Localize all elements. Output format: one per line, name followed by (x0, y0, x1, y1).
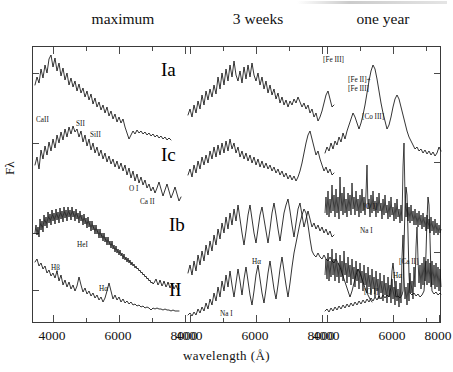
x-axis-label: wavelength (Å) (183, 348, 270, 364)
x-tick-top (190, 47, 191, 54)
x-tick-top (223, 47, 224, 51)
ion-label-coiii-ia-oneyear: [Co III] (362, 114, 384, 122)
sn-type-label-ii: II (169, 279, 182, 301)
x-tick (190, 315, 191, 322)
ion-label-oi-ic-oneyear: [O I] (363, 204, 377, 212)
spectrum-ia-one-year (325, 65, 441, 156)
plot-frame: Ia Ic Ib II CaII SII SiII O I Ca II HeI … (32, 46, 441, 323)
ion-label-caii-ii-oneyear: [Ca II] (399, 259, 418, 267)
ion-label-nai-ii-3weeks: Na I (220, 311, 233, 319)
spectrum-ii-one-year (325, 187, 441, 312)
x-tick-label: 6000 (105, 328, 132, 344)
ion-label-oi-ii-oneyear: [O I] (364, 289, 378, 297)
spectrum-ia-maximum (35, 55, 171, 140)
y-tick-right (434, 162, 440, 163)
ion-label-caii-ia: CaII (36, 117, 49, 125)
y-tick-right (434, 252, 440, 253)
x-tick-top (256, 47, 257, 54)
x-tick-top (360, 47, 361, 51)
ion-label-caii-ic: Ca II (140, 199, 155, 207)
y-axis-label: Fλ (2, 161, 18, 175)
ion-label-feii-feiii-ia-oneyear: [Fe II]+ (348, 77, 371, 85)
spectrum-ia-3weeks (188, 61, 334, 121)
ion-label-oi-ic: O I (129, 186, 138, 194)
x-tick-top (185, 47, 186, 54)
column-header-one-year: one year (357, 10, 410, 28)
y-tick (33, 290, 39, 291)
ion-label-nai-ib-oneyear: Na I (360, 228, 373, 236)
sn-type-label-ic: Ic (161, 144, 176, 166)
spectrum-ib-maximum (35, 207, 179, 290)
x-tick-top (119, 47, 120, 54)
supernova-spectra-figure: maximum 3 weeks one year Fλ (0, 0, 453, 372)
scan-artifact (297, 1, 447, 4)
x-tick (327, 315, 328, 322)
x-tick-label: 4000 (176, 328, 203, 344)
ion-label-halpha-ii: Hα (99, 286, 108, 294)
spectrum-ib-3weeks (188, 199, 334, 275)
x-tick (360, 318, 361, 322)
ion-label-halpha-ii-3weeks: Hα (252, 259, 261, 267)
x-tick (289, 318, 290, 322)
ion-label-sii-ia: SII (76, 121, 85, 129)
x-tick-label: 4000 (313, 328, 340, 344)
ion-label-hbeta-ii: Hβ (51, 265, 60, 273)
x-tick (86, 318, 87, 322)
sn-type-label-ia: Ia (161, 59, 176, 81)
x-tick (322, 315, 323, 322)
x-tick (152, 318, 153, 322)
sn-type-label-ib: Ib (169, 214, 185, 236)
spectrum-ic-maximum (35, 126, 181, 201)
x-tick (439, 315, 440, 322)
ion-label-halpha-ii-oneyear: Hα (393, 273, 402, 281)
x-tick (393, 315, 394, 322)
y-tick (33, 143, 39, 144)
spectra-traces (33, 47, 442, 324)
spectrum-ic-3weeks (188, 131, 334, 181)
spectrum-ii-3weeks (188, 209, 372, 316)
column-header-3weeks: 3 weeks (233, 10, 283, 28)
x-tick-top (86, 47, 87, 51)
x-tick-top (322, 47, 323, 54)
x-tick-top (426, 47, 427, 51)
x-tick-label: 4000 (39, 328, 66, 344)
y-tick (33, 233, 39, 234)
spectrum-ib-one-year (325, 227, 441, 307)
spectrum-ic-one-year (325, 143, 441, 235)
x-tick-top (152, 47, 153, 51)
y-tick-right (434, 73, 440, 74)
x-tick (185, 315, 186, 322)
x-tick-top (327, 47, 328, 54)
column-header-maximum: maximum (92, 10, 155, 28)
y-tick (33, 73, 39, 74)
x-tick-label: 8000 (425, 328, 452, 344)
x-tick-top (393, 47, 394, 54)
x-tick-top (53, 47, 54, 54)
x-tick (426, 318, 427, 322)
x-tick (119, 315, 120, 322)
x-tick (53, 315, 54, 322)
x-tick-top (289, 47, 290, 51)
ion-label-siii-ia: SiII (90, 132, 101, 140)
x-tick (256, 315, 257, 322)
x-tick-label: 6000 (242, 328, 269, 344)
ion-label-hei-ib: HeI (77, 242, 88, 250)
ion-label-feiii-ia-oneyear: [Fe III] (323, 57, 344, 65)
x-tick-label: 6000 (379, 328, 406, 344)
ion-label-feiii-second-ia-oneyear: [Fe III] (348, 86, 369, 94)
